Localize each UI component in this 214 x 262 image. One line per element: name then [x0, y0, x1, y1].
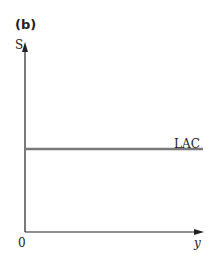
origin-label: 0: [18, 236, 26, 250]
diagram-canvas: [0, 0, 214, 262]
x-axis-arrow-icon: [194, 229, 204, 235]
panel-label: (b): [15, 17, 36, 32]
lac-label: LAC: [174, 137, 200, 151]
x-axis-label: y: [194, 236, 201, 250]
y-axis-label: S: [15, 38, 23, 52]
